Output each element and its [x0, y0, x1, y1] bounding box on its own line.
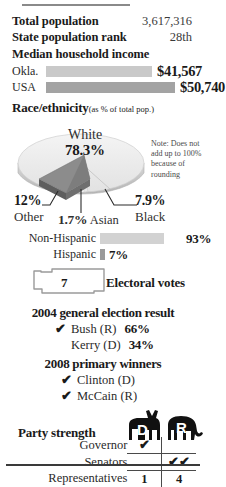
- senators-republican: ✔✔: [162, 454, 196, 471]
- candidate-name: Clinton (D): [77, 373, 135, 388]
- pie-label-black: Black: [135, 209, 165, 225]
- candidate-pct: 34%: [129, 337, 154, 353]
- hispanic-row-hispanic: Hispanic 7%: [12, 247, 194, 262]
- candidate-row-kerry: Kerry (D) 34%: [10, 337, 196, 353]
- table-row: Governor ✔: [10, 437, 196, 454]
- hispanic-row-non-hispanic: Non-Hispanic 93%: [12, 231, 194, 246]
- income-amount: $41,567: [157, 63, 202, 80]
- bottom-divider: [6, 464, 200, 466]
- pie-value-black: 7.9%: [135, 193, 165, 209]
- race-pie-chart: Note: Does not add up to 100% because of…: [10, 117, 196, 229]
- pie-value-white: 78.3%: [65, 142, 105, 159]
- elephant-letter: R: [176, 419, 187, 436]
- electoral-votes-block: 7 Electoral votes: [10, 267, 196, 303]
- stat-value: 3,617,316: [142, 14, 192, 29]
- hispanic-value: 93%: [186, 231, 211, 247]
- primary-row-clinton: ✔ Clinton (D): [10, 372, 196, 388]
- hispanic-value: 7%: [109, 247, 128, 263]
- oklahoma-state-icon: [32, 267, 110, 299]
- median-income-heading: Median household income: [10, 46, 196, 64]
- pie-asian-text: Asian: [90, 213, 119, 227]
- senators-democrat: [127, 454, 161, 471]
- hispanic-bar: [100, 233, 164, 244]
- representatives-republican: 4: [162, 471, 196, 487]
- governor-republican: [162, 437, 196, 454]
- check-icon: ✔: [10, 321, 71, 337]
- pie-value-other: 12%: [14, 193, 41, 209]
- income-bar: [46, 66, 152, 77]
- candidate-name: Bush (R): [71, 322, 117, 337]
- electoral-votes-count: 7: [61, 275, 68, 291]
- governor-democrat: ✔: [127, 437, 161, 454]
- check-icon: ✔: [10, 372, 77, 388]
- top-divider: [22, 4, 130, 6]
- hispanic-label: Non-Hispanic: [12, 231, 100, 246]
- race-heading-sub: (as % of total pop.): [89, 104, 154, 114]
- party-strength-block: Party strength D R Governor ✔ Senators ✔: [10, 409, 196, 487]
- income-bar: [46, 82, 175, 93]
- pie-value-asian: 1.7%: [58, 212, 87, 227]
- income-label: Okla.: [12, 64, 46, 79]
- income-label: USA: [12, 80, 46, 95]
- row-label-governor: Governor: [10, 437, 127, 454]
- pie-label-other: Other: [14, 209, 44, 225]
- primary-winners-heading: 2008 primary winners: [10, 356, 196, 372]
- general-election-heading: 2004 general election result: [10, 305, 196, 321]
- table-row: Senators ✔✔: [10, 454, 196, 471]
- party-strength-table: Governor ✔ Senators ✔✔ Representatives 1…: [10, 437, 196, 487]
- donkey-letter: D: [137, 421, 148, 438]
- table-row: Representatives 1 4: [10, 471, 196, 487]
- stat-row-population-rank: State population rank 28th: [10, 30, 196, 45]
- candidate-name: Kerry (D): [71, 338, 121, 353]
- row-label-representatives: Representatives: [10, 471, 127, 487]
- stat-value: 28th: [170, 30, 192, 45]
- party-mascots: D R: [126, 407, 206, 441]
- race-ethnicity-heading: Race/ethnicity(as % of total pop.): [10, 96, 196, 116]
- stat-row-total-population: Total population 3,617,316: [10, 14, 196, 29]
- race-heading-text: Race/ethnicity: [12, 100, 89, 115]
- candidate-pct: 66%: [125, 321, 150, 337]
- pie-note: Note: Does not add up to 100% because of…: [151, 139, 211, 180]
- hispanic-bar: [100, 249, 105, 260]
- representatives-democrat: 1: [127, 471, 161, 487]
- hispanic-chart: Non-Hispanic 93% Hispanic 7%: [10, 229, 196, 262]
- income-amount: $50,740: [180, 79, 225, 96]
- check-icon: ✔: [10, 388, 77, 404]
- income-row-usa: USA $50,740: [12, 80, 194, 95]
- primary-row-mccain: ✔ McCain (R): [10, 388, 196, 404]
- candidate-row-bush: ✔ Bush (R) 66%: [10, 321, 196, 337]
- stat-label: State population rank: [12, 30, 127, 45]
- pie-label-asian: 1.7% Asian: [58, 212, 119, 228]
- electoral-votes-label: Electoral votes: [106, 275, 185, 291]
- income-row-okla: Okla. $41,567: [12, 64, 194, 79]
- row-label-senators: Senators: [10, 454, 127, 471]
- income-chart: Okla. $41,567 USA $50,740: [10, 64, 196, 95]
- stat-label: Total population: [12, 14, 99, 29]
- pie-label-white: White: [68, 127, 102, 143]
- candidate-name: McCain (R): [77, 389, 137, 404]
- hispanic-label: Hispanic: [12, 247, 100, 262]
